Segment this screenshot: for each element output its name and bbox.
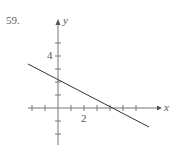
data-line <box>28 64 149 127</box>
x-axis-label: x <box>163 101 169 113</box>
y-axis-arrow-icon <box>56 19 61 25</box>
graph: x y 2 4 <box>0 0 174 148</box>
y-tick-label-4: 4 <box>47 49 53 61</box>
x-axis-arrow-icon <box>157 106 162 111</box>
x-tick-label-2: 2 <box>81 112 87 124</box>
y-axis-label: y <box>62 14 68 26</box>
